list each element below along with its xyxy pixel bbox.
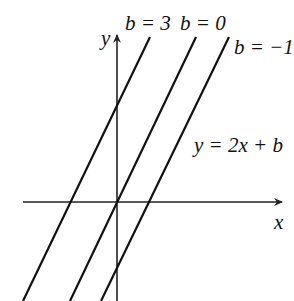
label-b-neg1: b = −1	[234, 37, 294, 58]
label-b-3: b = 3	[125, 13, 171, 34]
equation-label: y = 2x + b	[194, 135, 283, 156]
diagram: y x b = 3 b = 0 b = −1 y = 2x + b	[0, 0, 294, 301]
x-axis-label: x	[274, 212, 283, 233]
line-b-0	[70, 37, 196, 301]
y-axis-label: y	[101, 28, 110, 49]
label-b-0: b = 0	[180, 13, 226, 34]
line-b-3	[23, 37, 150, 301]
line-b-neg1	[101, 37, 229, 301]
